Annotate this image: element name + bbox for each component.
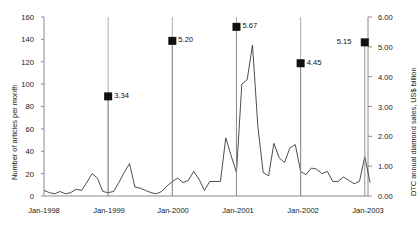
dtc-marker-label: 5.67 xyxy=(242,21,257,30)
articles-line-series xyxy=(44,45,370,194)
dtc-marker xyxy=(361,38,369,46)
dtc-marker xyxy=(232,23,240,31)
chart-container: Number of articles per month DTC annual … xyxy=(0,0,420,232)
plot-area xyxy=(0,0,420,232)
dtc-droplines xyxy=(108,27,365,196)
dtc-marker-label: 4.45 xyxy=(307,58,322,67)
dtc-marker xyxy=(168,37,176,45)
year-gridlines xyxy=(108,17,300,196)
dtc-marker-label: 5.20 xyxy=(178,35,193,44)
dtc-marker xyxy=(104,92,112,100)
dtc-marker xyxy=(297,59,305,67)
axes-group xyxy=(41,17,372,196)
dtc-marker-label: 3.34 xyxy=(114,91,129,100)
dtc-marker-label: 5.15 xyxy=(337,37,352,46)
